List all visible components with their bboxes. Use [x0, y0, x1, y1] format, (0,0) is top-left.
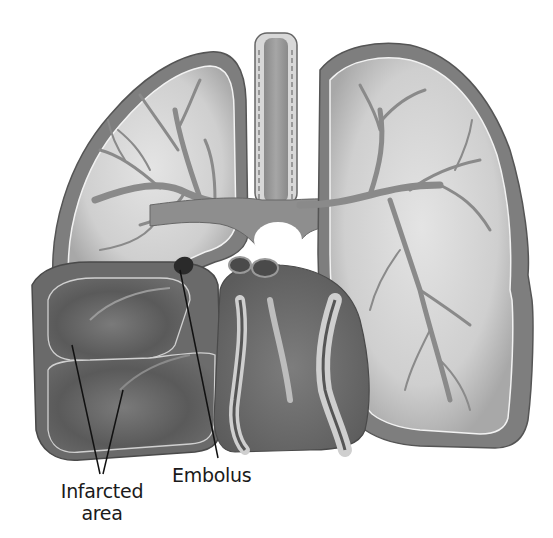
- infarct-upper-segment: [48, 278, 190, 362]
- infarcted-lower-lobe: [32, 262, 222, 460]
- infarcted-area-label: Infarcted area: [60, 480, 144, 524]
- lung-embolism-illustration: [0, 0, 553, 538]
- vessel-opening-2: [252, 259, 278, 277]
- embolus-label: Embolus: [172, 464, 251, 486]
- trachea: [255, 33, 297, 205]
- infarcted-area-label-line1: Infarcted: [60, 480, 144, 502]
- aortic-arch-opening: [254, 222, 302, 258]
- infarcted-area-label-line2: area: [60, 502, 144, 524]
- infarct-lower-segment: [48, 353, 215, 452]
- vessel-opening-1: [229, 257, 251, 273]
